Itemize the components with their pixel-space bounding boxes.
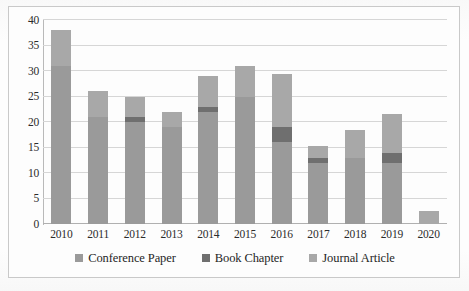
bar-group[interactable] bbox=[419, 211, 439, 224]
bar-segment[interactable] bbox=[382, 114, 402, 152]
x-tick-label: 2012 bbox=[116, 228, 153, 241]
bar-segment[interactable] bbox=[382, 163, 402, 224]
plot-area bbox=[43, 20, 447, 224]
legend-item[interactable]: Conference Paper bbox=[75, 252, 176, 265]
legend-swatch-icon bbox=[202, 254, 210, 262]
bar-segment[interactable] bbox=[235, 97, 255, 225]
legend-label: Conference Paper bbox=[88, 252, 176, 265]
y-axis-tick-labels: 0510152025303540 bbox=[9, 20, 39, 224]
bar-group[interactable] bbox=[198, 76, 218, 224]
y-tick-label: 0 bbox=[13, 219, 39, 231]
bar-segment[interactable] bbox=[345, 130, 365, 158]
bar-group[interactable] bbox=[345, 130, 365, 224]
y-tick-label: 35 bbox=[13, 40, 39, 52]
bar-segment[interactable] bbox=[88, 117, 108, 224]
y-tick-label: 20 bbox=[13, 117, 39, 129]
bar-segment[interactable] bbox=[272, 127, 292, 142]
x-tick-label: 2019 bbox=[374, 228, 411, 241]
legend-swatch-icon bbox=[309, 254, 317, 262]
y-tick-label: 15 bbox=[13, 142, 39, 154]
legend-label: Book Chapter bbox=[215, 252, 284, 265]
legend-item[interactable]: Book Chapter bbox=[202, 252, 284, 265]
bar-segment[interactable] bbox=[125, 97, 145, 117]
bar-segment[interactable] bbox=[382, 153, 402, 163]
x-tick-label: 2013 bbox=[153, 228, 190, 241]
y-tick-label: 30 bbox=[13, 66, 39, 78]
bars-layer bbox=[43, 20, 447, 224]
legend-swatch-icon bbox=[75, 254, 83, 262]
bar-group[interactable] bbox=[51, 30, 71, 224]
bar-segment[interactable] bbox=[51, 66, 71, 224]
bar-group[interactable] bbox=[235, 66, 255, 224]
x-tick-label: 2018 bbox=[337, 228, 374, 241]
y-tick-label: 10 bbox=[13, 168, 39, 180]
bar-group[interactable] bbox=[382, 114, 402, 224]
bar-segment[interactable] bbox=[162, 127, 182, 224]
bar-segment[interactable] bbox=[162, 112, 182, 127]
bar-segment[interactable] bbox=[198, 76, 218, 107]
bar-group[interactable] bbox=[272, 74, 292, 224]
bar-segment[interactable] bbox=[272, 142, 292, 224]
bar-group[interactable] bbox=[308, 146, 328, 224]
bar-group[interactable] bbox=[88, 91, 108, 224]
x-tick-label: 2016 bbox=[263, 228, 300, 241]
x-tick-label: 2017 bbox=[300, 228, 337, 241]
legend-label: Journal Article bbox=[322, 252, 394, 265]
bar-segment[interactable] bbox=[272, 74, 292, 128]
x-tick-label: 2020 bbox=[410, 228, 447, 241]
x-tick-label: 2015 bbox=[227, 228, 264, 241]
y-tick-label: 5 bbox=[13, 193, 39, 205]
bar-segment[interactable] bbox=[308, 163, 328, 224]
y-tick-label: 25 bbox=[13, 91, 39, 103]
x-tick-label: 2010 bbox=[43, 228, 80, 241]
bar-segment[interactable] bbox=[345, 158, 365, 224]
bar-segment[interactable] bbox=[125, 122, 145, 224]
x-axis-tick-labels: 2010201120122013201420152016201720182019… bbox=[43, 228, 447, 246]
bar-segment[interactable] bbox=[235, 66, 255, 97]
bar-segment[interactable] bbox=[198, 112, 218, 224]
bar-segment[interactable] bbox=[51, 30, 71, 66]
bar-segment[interactable] bbox=[88, 91, 108, 117]
x-tick-label: 2014 bbox=[190, 228, 227, 241]
legend-item[interactable]: Journal Article bbox=[309, 252, 394, 265]
stacked-bar-chart: 0510152025303540 20102011201220132014201… bbox=[8, 6, 460, 278]
bar-group[interactable] bbox=[162, 112, 182, 224]
bar-segment[interactable] bbox=[308, 146, 328, 158]
y-tick-label: 40 bbox=[13, 15, 39, 27]
chart-legend: Conference PaperBook ChapterJournal Arti… bbox=[9, 252, 461, 265]
bar-segment[interactable] bbox=[419, 211, 439, 224]
bar-group[interactable] bbox=[125, 97, 145, 224]
x-tick-label: 2011 bbox=[80, 228, 117, 241]
